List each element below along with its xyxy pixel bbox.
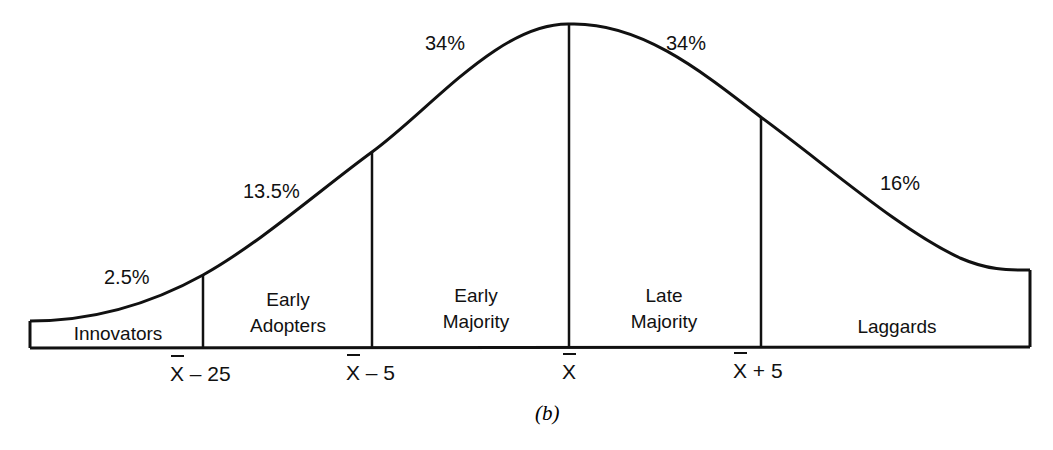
percent-laggards: 16%: [880, 172, 920, 194]
svg-text:X: X: [562, 360, 576, 383]
percent-early-adopters: 13.5%: [243, 180, 300, 202]
tick-x-minus-25: X – 25: [170, 356, 231, 385]
label-early-majority-2: Majority: [443, 311, 510, 332]
percent-late-majority: 34%: [666, 32, 706, 54]
tick-mean: X: [562, 354, 576, 383]
tick-x-plus-5: X + 5: [733, 353, 783, 382]
percent-innovators: 2.5%: [104, 266, 150, 288]
label-early-adopters-1: Early: [266, 289, 310, 310]
svg-text:– 25: – 25: [184, 362, 231, 385]
tick-x-minus-5: X – 5: [346, 355, 395, 384]
svg-text:– 5: – 5: [360, 361, 395, 384]
baseline: [30, 347, 1030, 348]
figure-caption: (b): [535, 401, 560, 425]
label-early-adopters-2: Adopters: [250, 315, 326, 336]
svg-text:+ 5: + 5: [747, 359, 783, 382]
svg-text:X: X: [733, 359, 747, 382]
adoption-curve-diagram: 2.5% 13.5% 34% 34% 16% Innovators Early …: [0, 0, 1053, 450]
label-laggards: Laggards: [857, 316, 936, 337]
label-late-majority-2: Majority: [631, 311, 698, 332]
percent-early-majority: 34%: [425, 32, 465, 54]
svg-text:X: X: [346, 361, 360, 384]
label-innovators: Innovators: [74, 323, 163, 344]
label-early-majority-1: Early: [454, 285, 498, 306]
svg-text:X: X: [170, 362, 184, 385]
label-late-majority-1: Late: [646, 285, 683, 306]
